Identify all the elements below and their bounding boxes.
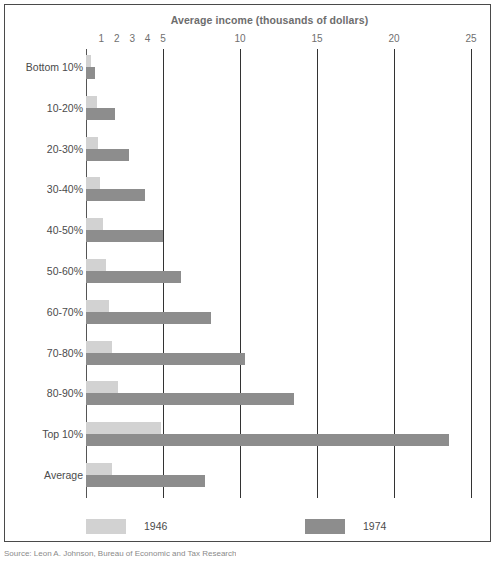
tick-label-1: 1	[99, 33, 105, 44]
bar-1974	[86, 230, 163, 242]
bar-1946	[86, 463, 112, 475]
bar-1974	[86, 475, 205, 487]
bar-1946	[86, 55, 91, 67]
bar-1946	[86, 177, 100, 189]
category-label: 20-30%	[0, 143, 83, 155]
bar-row: Bottom 10%	[5, 55, 492, 79]
bar-row: Average	[5, 463, 492, 487]
bar-1946	[86, 259, 106, 271]
bar-rows: Bottom 10%10-20%20-30%30-40%40-50%50-60%…	[5, 49, 492, 498]
bar-1974	[86, 434, 449, 446]
bar-row: Top 10%	[5, 422, 492, 446]
bar-1974	[86, 108, 115, 120]
bar-1974	[86, 271, 181, 283]
bar-1974	[86, 189, 145, 201]
category-label: 60-70%	[0, 306, 83, 318]
legend-label: 1974	[363, 520, 386, 532]
figure-frame: Average income (thousands of dollars) 12…	[4, 4, 491, 542]
bar-1974	[86, 393, 294, 405]
category-label: 50-60%	[0, 265, 83, 277]
tick-label-25: 25	[465, 33, 476, 44]
bar-1946	[86, 381, 118, 393]
bar-1946	[86, 218, 103, 230]
bar-1946	[86, 300, 109, 312]
tick-label-3: 3	[129, 33, 135, 44]
tick-label-10: 10	[234, 33, 245, 44]
bar-row: 50-60%	[5, 259, 492, 283]
bar-1974	[86, 312, 211, 324]
bar-row: 40-50%	[5, 218, 492, 242]
tick-label-20: 20	[388, 33, 399, 44]
bar-1946	[86, 137, 98, 149]
category-label: Top 10%	[0, 428, 83, 440]
bar-row: 70-80%	[5, 341, 492, 365]
category-label: Bottom 10%	[0, 61, 83, 73]
bar-row: 10-20%	[5, 96, 492, 120]
category-label: 10-20%	[0, 102, 83, 114]
bar-1946	[86, 341, 112, 353]
bar-1974	[86, 67, 95, 79]
category-label: 70-80%	[0, 347, 83, 359]
bar-1946	[86, 422, 161, 434]
bar-row: 30-40%	[5, 177, 492, 201]
bar-row: 80-90%	[5, 381, 492, 405]
bar-row: 60-70%	[5, 300, 492, 324]
source-caption: Source: Leon A. Johnson, Bureau of Econo…	[4, 549, 236, 558]
bar-1974	[86, 353, 245, 365]
category-label: Average	[0, 469, 83, 481]
bar-row: 20-30%	[5, 137, 492, 161]
chart-title: Average income (thousands of dollars)	[5, 14, 490, 26]
tick-label-4: 4	[145, 33, 151, 44]
legend-label: 1946	[144, 520, 167, 532]
bar-1974	[86, 149, 129, 161]
bar-1946	[86, 96, 97, 108]
category-label: 40-50%	[0, 224, 83, 236]
legend-swatch-1946	[86, 519, 126, 534]
chart-legend: 19461974	[5, 517, 492, 539]
tick-label-2: 2	[114, 33, 120, 44]
tick-label-5: 5	[160, 33, 166, 44]
category-label: 30-40%	[0, 183, 83, 195]
tick-label-15: 15	[311, 33, 322, 44]
legend-swatch-1974	[305, 519, 345, 534]
category-label: 80-90%	[0, 387, 83, 399]
